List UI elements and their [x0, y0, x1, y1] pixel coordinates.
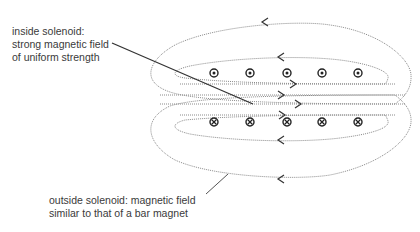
current-out-icon — [283, 69, 291, 77]
label-outside-solenoid: outside solenoid: magnetic field similar… — [49, 194, 196, 220]
label-inside-line-3: of uniform strength — [12, 51, 109, 64]
current-out-icon — [210, 69, 218, 77]
field-line-upper-outer — [151, 23, 411, 104]
leader-line-outside — [206, 174, 228, 194]
conductor-row-top — [210, 69, 362, 77]
current-out-icon — [318, 69, 326, 77]
current-in-icon — [354, 118, 362, 126]
arrow-left-bottom-outer — [278, 175, 284, 183]
label-inside-solenoid: inside solenoid: strong magnetic field o… — [12, 25, 109, 64]
arrow-left-top-outer — [262, 18, 268, 26]
conductor-row-bottom — [210, 118, 362, 126]
field-line-upper-inner — [175, 58, 388, 84]
current-out-icon — [246, 69, 254, 77]
arrow-left-bottom-inner — [278, 136, 284, 144]
current-in-icon — [318, 118, 326, 126]
current-out-icon — [354, 69, 362, 77]
current-in-icon — [283, 118, 291, 126]
label-outside-line-1: outside solenoid: magnetic field — [49, 194, 196, 207]
label-inside-line-2: strong magnetic field — [12, 38, 109, 51]
arrow-left-top-inner — [278, 53, 284, 61]
current-in-icon — [246, 118, 254, 126]
label-inside-line-1: inside solenoid: — [12, 25, 109, 38]
field-line-lower-outer — [151, 95, 411, 177]
current-in-icon — [210, 118, 218, 126]
label-outside-line-2: similar to that of a bar magnet — [49, 207, 196, 220]
